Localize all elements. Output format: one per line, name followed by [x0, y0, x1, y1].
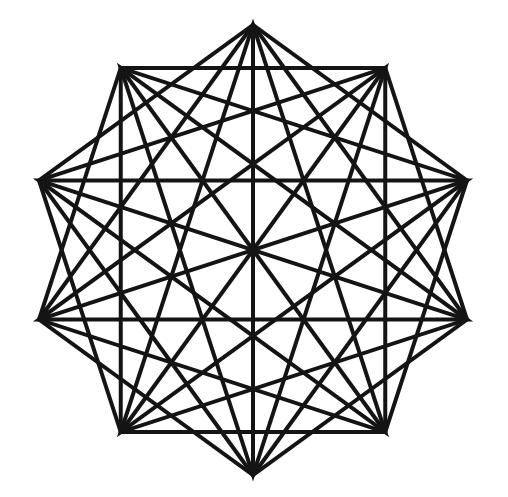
star-polygon-figure: Decagram star polygon compound Ten-point… — [0, 0, 508, 497]
